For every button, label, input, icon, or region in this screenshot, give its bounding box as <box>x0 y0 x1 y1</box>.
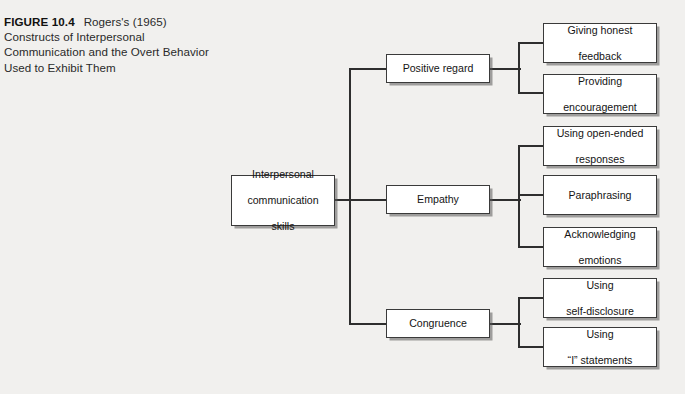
node-using-i-statements-line-2: “I” statements <box>565 354 636 367</box>
node-positive-regard-label: Positive regard <box>400 62 477 75</box>
node-giving-honest-feedback-line-2: feedback <box>565 50 636 63</box>
node-using-open-ended-responses[interactable]: Using open-endedresponses <box>543 126 657 166</box>
connector-trunk-vertical <box>349 68 351 325</box>
connector-positive-regard-stub <box>489 68 521 70</box>
node-using-open-ended-responses-line-2: responses <box>554 153 647 166</box>
node-root-line-3: skills <box>244 220 321 233</box>
node-interpersonal-communication-skills[interactable]: Interpersonalcommunicationskills <box>231 175 335 226</box>
node-using-self-disclosure-line-2: self-disclosure <box>563 305 637 318</box>
node-using-i-statements-text: Using“I” statements <box>562 328 639 367</box>
node-providing-encouragement-text: Providingencouragement <box>557 75 643 114</box>
figure-root: FIGURE 10.4Rogers's (1965) Constructs of… <box>0 0 685 394</box>
connector-empathy-to-paraphrasing <box>518 194 544 196</box>
node-using-i-statements[interactable]: Using“I” statements <box>543 327 657 367</box>
connector-empathy-to-using-open-ended-responses <box>518 145 544 147</box>
connector-congruence-stub <box>489 323 521 325</box>
node-congruence-label: Congruence <box>406 317 470 330</box>
figure-title-line-4: Used to Exhibit Them <box>4 61 116 74</box>
node-acknowledging-emotions[interactable]: Acknowledgingemotions <box>543 227 657 267</box>
connector-empathy-spine <box>518 145 520 248</box>
connector-positive-regard-spine <box>518 42 520 94</box>
node-congruence[interactable]: Congruence <box>386 309 490 338</box>
node-providing-encouragement-line-2: encouragement <box>560 101 640 114</box>
node-empathy-label: Empathy <box>414 193 462 206</box>
node-giving-honest-feedback[interactable]: Giving honestfeedback <box>543 23 657 63</box>
connector-empathy-to-acknowledging-emotions <box>518 246 544 248</box>
node-providing-encouragement-line-1: Providing <box>560 75 640 88</box>
connector-trunk-to-congruence <box>349 323 386 325</box>
node-using-open-ended-responses-line-1: Using open-ended <box>554 127 647 140</box>
node-empathy[interactable]: Empathy <box>386 185 490 214</box>
figure-title-line-1: Rogers's (1965) <box>84 15 167 28</box>
node-giving-honest-feedback-text: Giving honestfeedback <box>562 24 639 63</box>
node-paraphrasing-label: Paraphrasing <box>565 189 634 202</box>
connector-trunk-to-positive-regard <box>349 68 386 70</box>
figure-title-line-2: Constructs of Interpersonal <box>4 30 145 43</box>
node-using-i-statements-line-1: Using <box>565 328 636 341</box>
node-acknowledging-emotions-line-2: emotions <box>561 254 638 267</box>
connector-positive-regard-to-providing-encouragement <box>518 92 544 94</box>
node-positive-regard[interactable]: Positive regard <box>386 54 490 83</box>
connector-congruence-to-using-self-disclosure <box>518 297 544 299</box>
node-using-self-disclosure[interactable]: Usingself-disclosure <box>543 278 657 318</box>
connector-positive-regard-to-giving-honest-feedback <box>518 42 544 44</box>
node-root-line-1: Interpersonal <box>244 168 321 181</box>
node-providing-encouragement[interactable]: Providingencouragement <box>543 74 657 114</box>
connector-congruence-spine <box>518 297 520 348</box>
figure-caption: FIGURE 10.4Rogers's (1965) Constructs of… <box>4 14 240 75</box>
connector-congruence-to-using-i-statements <box>518 346 544 348</box>
figure-label: FIGURE 10.4 <box>4 15 75 28</box>
figure-title-line-3: Communication and the Overt Behavior <box>4 45 209 58</box>
node-acknowledging-emotions-text: Acknowledgingemotions <box>558 228 641 267</box>
node-using-self-disclosure-line-1: Using <box>563 279 637 292</box>
connector-empathy-stub <box>489 199 521 201</box>
node-using-self-disclosure-text: Usingself-disclosure <box>560 279 640 318</box>
node-paraphrasing[interactable]: Paraphrasing <box>543 175 657 215</box>
node-root-line-2: communication <box>244 194 321 207</box>
node-giving-honest-feedback-line-1: Giving honest <box>565 24 636 37</box>
node-using-open-ended-responses-text: Using open-endedresponses <box>551 127 650 166</box>
connector-trunk-to-empathy <box>349 199 386 201</box>
node-root-text: Interpersonalcommunicationskills <box>241 168 324 233</box>
node-acknowledging-emotions-line-1: Acknowledging <box>561 228 638 241</box>
